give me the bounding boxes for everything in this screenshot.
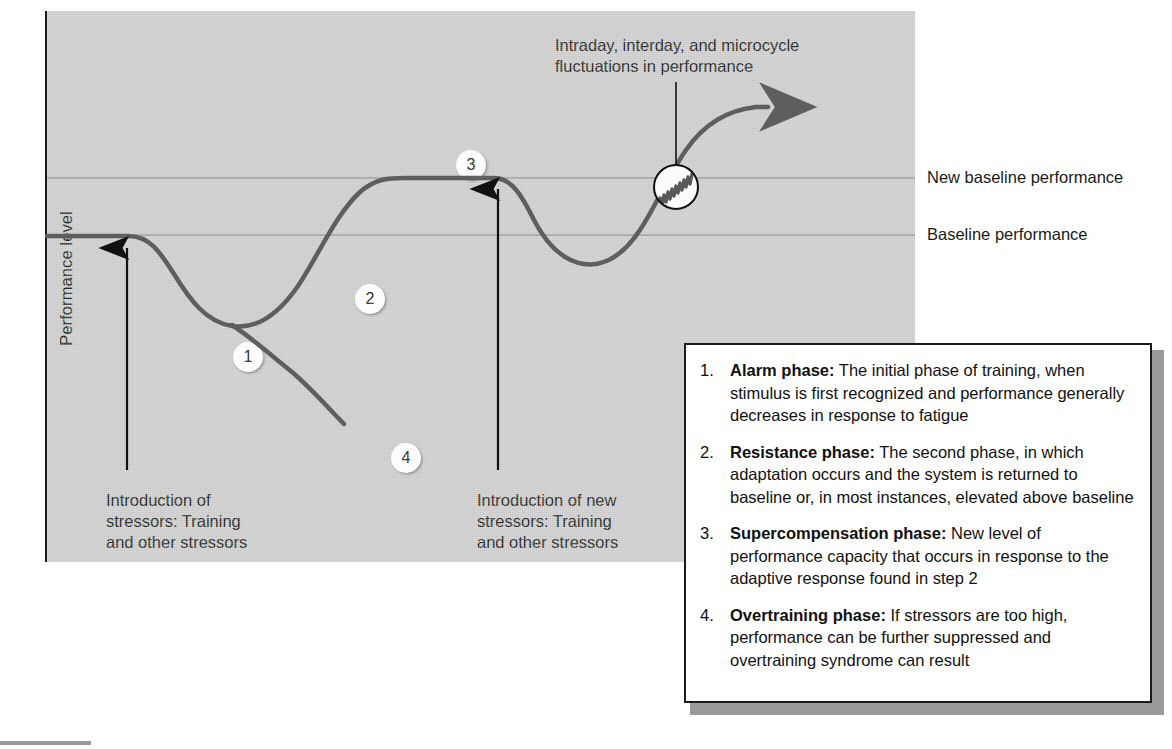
key-item-3: 3. Supercompensation phase: New level of… [700,522,1134,590]
key-item-number: 4. [700,604,730,672]
key-item-4: 4. Overtraining phase: If stressors are … [700,604,1134,672]
key-item-number: 2. [700,441,730,509]
key-item-number: 1. [700,359,730,427]
key-item-number: 3. [700,522,730,590]
key-item-text: Resistance phase: The second phase, in w… [730,441,1134,509]
adaptation-curve [47,107,768,327]
key-item-term: Supercompensation phase: [730,524,946,542]
key-item-text: Supercompensation phase: New level of pe… [730,522,1134,590]
key-item-term: Resistance phase: [730,443,875,461]
key-item-text: Overtraining phase: If stressors are too… [730,604,1134,672]
key-list: 1. Alarm phase: The initial phase of tra… [700,359,1134,671]
key-item-term: Alarm phase: [730,361,835,379]
key-item-term: Overtraining phase: [730,606,886,624]
general-adaptation-syndrome-figure: Performance level 1 2 3 4 Intraday, inte… [0,0,1172,749]
overtraining-curve [232,325,344,424]
key-item-1: 1. Alarm phase: The initial phase of tra… [700,359,1134,427]
key-item-2: 2. Resistance phase: The second phase, i… [700,441,1134,509]
footer-rule [0,741,91,745]
key-box: 1. Alarm phase: The initial phase of tra… [684,343,1152,703]
key-item-text: Alarm phase: The initial phase of traini… [730,359,1134,427]
